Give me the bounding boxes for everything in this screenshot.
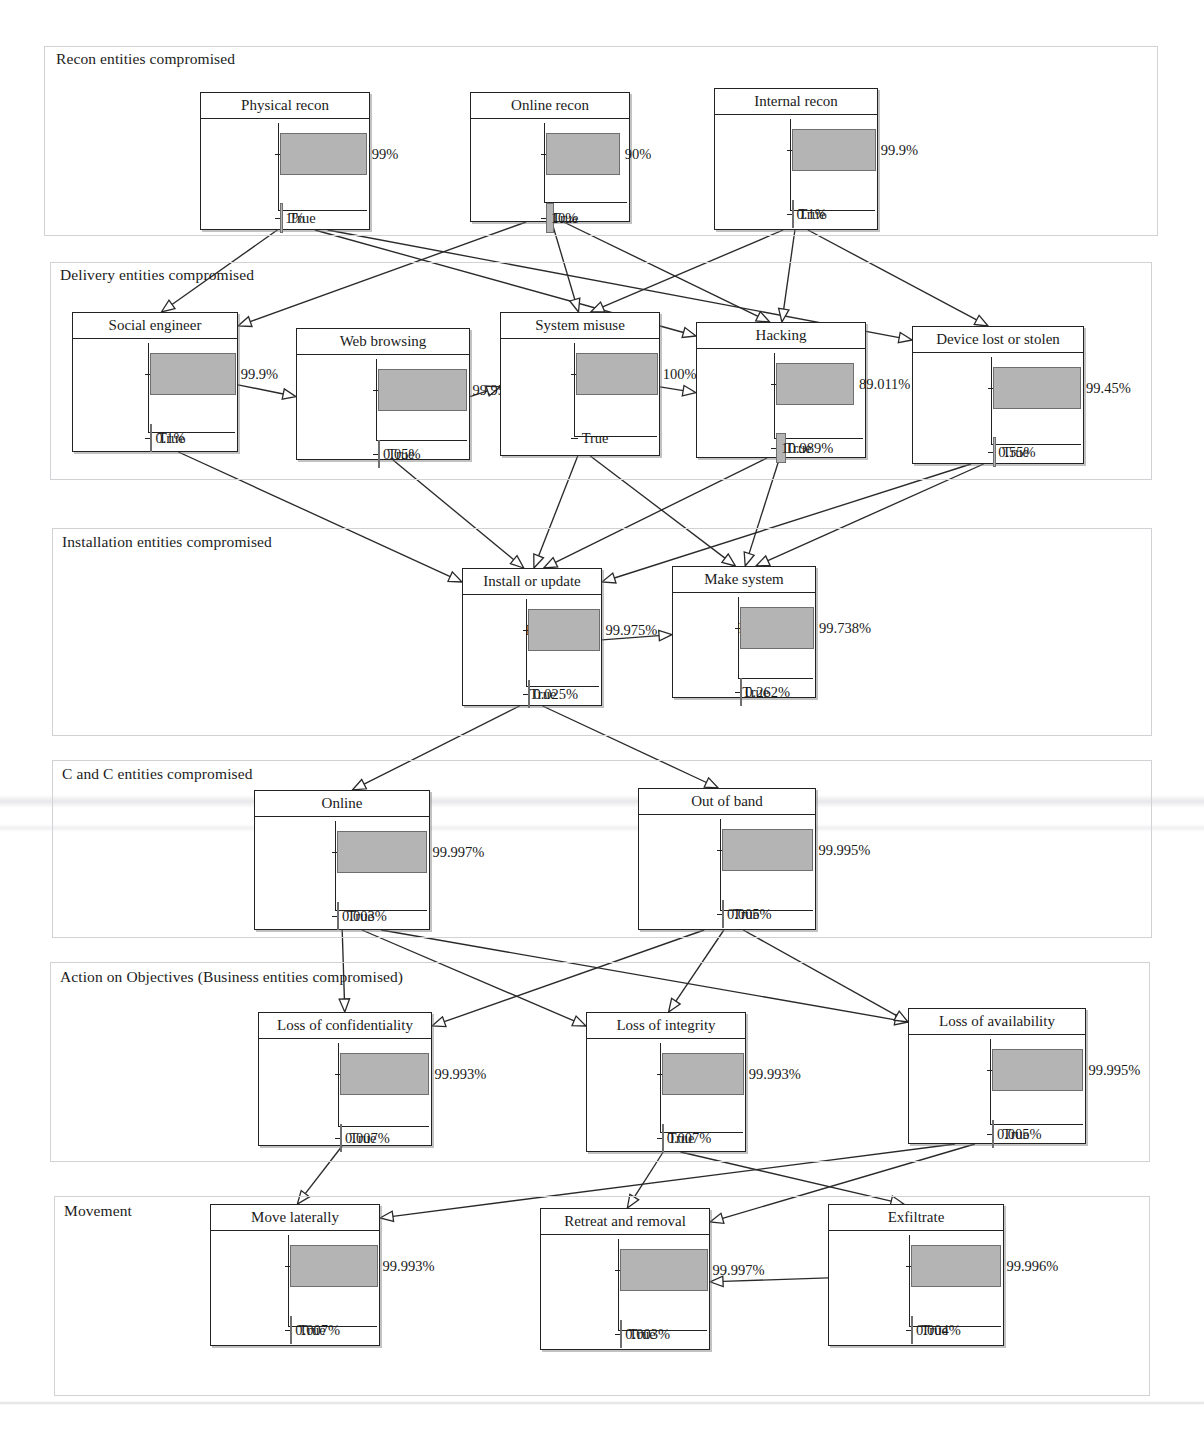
node-body-install-or-update: False99.975%True0.025% [463, 595, 601, 705]
node-title-online-recon: Online recon [471, 93, 629, 119]
belief-bar-true [620, 1320, 622, 1348]
lane-title-delivery: Delivery entities compromised [60, 266, 254, 284]
belief-bar-true [280, 203, 283, 233]
state-row-false: False99.995% [721, 827, 813, 873]
node-make-system[interactable]: Make systemFalse99.738%True0.262% [672, 566, 816, 698]
belief-bar-plot-retreat-and-removal: False99.997%True0.003% [618, 1239, 707, 1331]
lane-title-movement: Movement [64, 1202, 132, 1220]
node-body-hacking: False89.011%True10.989% [697, 349, 865, 457]
state-row-false: False99.45% [992, 365, 1081, 411]
node-install-or-update[interactable]: Install or updateFalse99.975%True0.025% [462, 568, 602, 706]
belief-bar-false [722, 829, 813, 871]
node-title-exfiltrate: Exfiltrate [829, 1205, 1003, 1231]
belief-bar-plot-online-recon: False90%True10% [544, 123, 627, 203]
belief-bar-false [576, 353, 658, 395]
node-loss-of-confidentiality[interactable]: Loss of confidentialityFalse99.993%True0… [258, 1012, 432, 1146]
node-online[interactable]: OnlineFalse99.997%True0.003% [254, 790, 430, 930]
belief-value-false: 100% [663, 366, 697, 383]
belief-bar-false [150, 353, 235, 395]
node-title-web-browsing: Web browsing [297, 329, 469, 355]
belief-bar-false [792, 129, 876, 171]
node-out-of-band[interactable]: Out of bandFalse99.995%True0.005% [638, 788, 816, 930]
node-social-engineer[interactable]: Social engineerFalse99.9%True0.1% [72, 312, 238, 452]
belief-bar-true [740, 678, 742, 706]
node-web-browsing[interactable]: Web browsingFalse99.95%True0.05% [296, 328, 470, 460]
node-hacking[interactable]: HackingFalse89.011%True10.989% [696, 322, 866, 458]
state-row-true: True10% [545, 195, 627, 241]
belief-bar-false [290, 1245, 377, 1287]
state-row-false: False90% [545, 131, 627, 177]
state-row-false: False99.993% [339, 1051, 429, 1097]
node-title-physical-recon: Physical recon [201, 93, 369, 119]
node-device-lost-or-stolen[interactable]: Device lost or stolenFalse99.45%True0.55… [912, 326, 1084, 464]
node-body-internal-recon: False99.9%True0.1% [715, 115, 877, 229]
state-row-true: True10.989% [775, 425, 863, 471]
belief-bar-false [280, 133, 366, 175]
node-body-make-system: False99.738%True0.262% [673, 593, 815, 697]
node-title-loss-of-confidentiality: Loss of confidentiality [259, 1013, 431, 1039]
state-row-true: True0.1% [791, 191, 875, 237]
belief-value-true: 0.007% [295, 1322, 340, 1339]
state-row-false: False99.975% [527, 607, 599, 653]
belief-bar-plot-install-or-update: False99.975%True0.025% [526, 599, 599, 687]
lane-title-objectives: Action on Objectives (Business entities … [60, 968, 403, 986]
state-row-true: True0.003% [336, 893, 427, 939]
belief-bar-true [290, 1316, 292, 1344]
node-online-recon[interactable]: Online reconFalse90%True10% [470, 92, 630, 222]
node-body-social-engineer: False99.9%True0.1% [73, 339, 237, 451]
lane-installation [52, 528, 1152, 736]
node-title-online: Online [255, 791, 429, 817]
belief-bar-plot-system-misuse: False100%True [574, 343, 657, 437]
belief-bar-false [340, 1053, 429, 1095]
node-title-make-system: Make system [673, 567, 815, 593]
belief-bar-plot-device-lost-or-stolen: False99.45%True0.55% [991, 357, 1081, 445]
belief-bar-false [740, 607, 814, 649]
node-retreat-and-removal[interactable]: Retreat and removalFalse99.997%True0.003… [540, 1208, 710, 1350]
belief-bar-true [337, 902, 339, 930]
belief-bar-true [993, 437, 996, 467]
state-row-true: True0.05% [377, 431, 467, 477]
belief-value-true: 0.262% [745, 684, 790, 701]
node-move-laterally[interactable]: Move laterallyFalse99.993%True0.007% [210, 1204, 380, 1346]
belief-value-false: 90% [625, 146, 652, 163]
belief-value-true: 0.003% [625, 1326, 670, 1343]
node-body-online-recon: False90%True10% [471, 119, 629, 221]
belief-bar-false [662, 1053, 744, 1095]
belief-value-false: 99.45% [1086, 380, 1131, 397]
state-row-false: False99.995% [991, 1047, 1083, 1093]
belief-bar-plot-loss-of-integrity: False99.993%True0.007% [660, 1043, 743, 1133]
lane-candc [52, 760, 1152, 938]
belief-bar-false [992, 1049, 1083, 1091]
belief-bar-plot-loss-of-confidentiality: False99.993%True0.007% [338, 1043, 429, 1127]
belief-value-true: 0.004% [916, 1322, 961, 1339]
node-body-loss-of-confidentiality: False99.993%True0.007% [259, 1039, 431, 1145]
node-physical-recon[interactable]: Physical reconFalse99%True1% [200, 92, 370, 230]
state-row-true: True0.003% [619, 1311, 707, 1357]
node-loss-of-integrity[interactable]: Loss of integrityFalse99.993%True0.007% [586, 1012, 746, 1152]
lane-title-candc: C and C entities compromised [62, 765, 253, 783]
belief-value-false: 99.9% [241, 366, 278, 383]
node-title-internal-recon: Internal recon [715, 89, 877, 115]
node-system-misuse[interactable]: System misuseFalse100%True [500, 312, 660, 456]
belief-bar-plot-web-browsing: False99.95%True0.05% [376, 359, 467, 441]
state-row-true: True0.005% [991, 1111, 1083, 1157]
belief-value-true: 0.005% [727, 906, 772, 923]
scan-artifact-band [0, 1401, 1204, 1405]
belief-bar-plot-physical-recon: False99%True1% [278, 123, 367, 211]
belief-value-false: 99.993% [383, 1258, 435, 1275]
state-row-true: True0.007% [339, 1115, 429, 1161]
belief-value-false: 99% [372, 146, 399, 163]
node-title-social-engineer: Social engineer [73, 313, 237, 339]
node-loss-of-availability[interactable]: Loss of availabilityFalse99.995%True0.00… [908, 1008, 1086, 1144]
node-body-loss-of-availability: False99.995%True0.005% [909, 1035, 1085, 1143]
belief-value-true: 0.005% [997, 1126, 1042, 1143]
belief-bar-plot-hacking: False89.011%True10.989% [774, 353, 863, 439]
node-title-loss-of-integrity: Loss of integrity [587, 1013, 745, 1039]
belief-bar-false [620, 1249, 707, 1291]
state-row-false: False99.997% [619, 1247, 707, 1293]
node-body-loss-of-integrity: False99.993%True0.007% [587, 1039, 745, 1151]
node-internal-recon[interactable]: Internal reconFalse99.9%True0.1% [714, 88, 878, 230]
node-title-retreat-and-removal: Retreat and removal [541, 1209, 709, 1235]
node-exfiltrate[interactable]: ExfiltrateFalse99.996%True0.004% [828, 1204, 1004, 1346]
bayesian-network-figure: Recon entities compromisedDelivery entit… [0, 0, 1204, 1436]
